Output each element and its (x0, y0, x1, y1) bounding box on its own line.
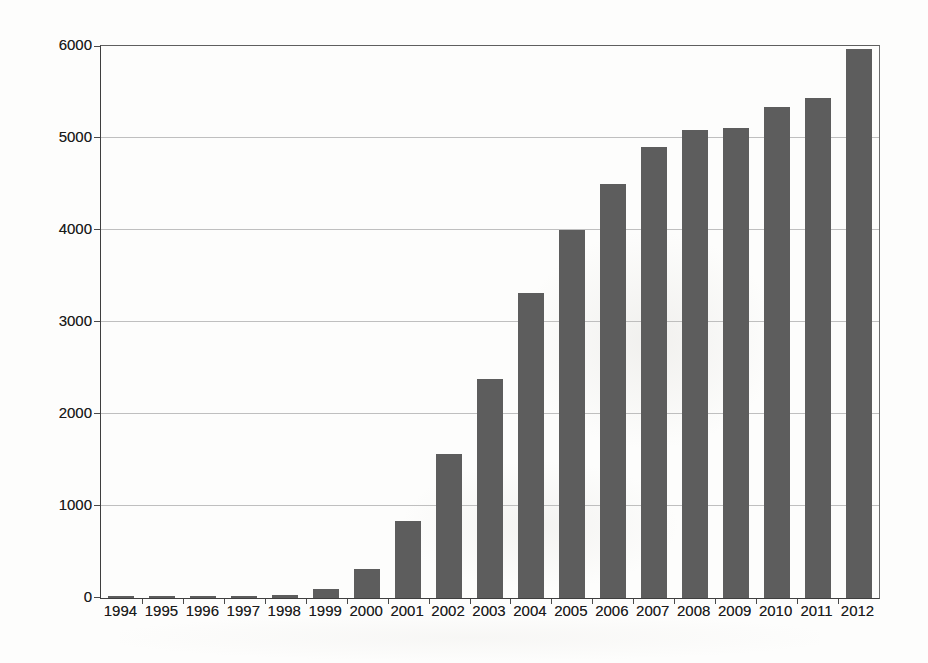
bar-2012 (846, 49, 872, 598)
y-tick-label: 6000 (0, 37, 92, 53)
bar-1999 (313, 589, 339, 598)
y-axis-tick (94, 505, 100, 506)
x-tick-label: 1995 (141, 603, 182, 619)
x-tick-label: 2011 (796, 603, 837, 619)
y-axis-tick (94, 137, 100, 138)
y-tick-label: 2000 (0, 405, 92, 421)
y-axis-tick (94, 46, 100, 47)
y-axis-tick (94, 413, 100, 414)
x-tick-label: 2003 (469, 603, 510, 619)
x-tick-label: 2001 (387, 603, 428, 619)
x-tick-label: 2009 (714, 603, 755, 619)
bar-2011 (805, 98, 831, 598)
bar-2006 (600, 184, 626, 598)
x-tick-label: 2005 (550, 603, 591, 619)
y-tick-label: 3000 (0, 313, 92, 329)
bar-2001 (395, 521, 421, 598)
x-tick-label: 2006 (591, 603, 632, 619)
y-axis-labels: 0100020003000400050006000 (0, 45, 92, 599)
bar-2003 (477, 379, 503, 598)
x-tick-label: 1999 (305, 603, 346, 619)
bar-2009 (723, 128, 749, 598)
plot-area (100, 45, 880, 599)
x-tick-label: 1998 (264, 603, 305, 619)
x-tick-label: 2002 (428, 603, 469, 619)
x-tick-label: 1994 (100, 603, 141, 619)
x-tick-label: 2008 (673, 603, 714, 619)
bar-2004 (518, 293, 544, 598)
bar-2002 (436, 454, 462, 598)
y-tick-label: 5000 (0, 129, 92, 145)
bar-1997 (231, 596, 257, 598)
x-axis-labels: 1994199519961997199819992000200120022003… (100, 603, 880, 623)
scanned-page: 0100020003000400050006000 19941995199619… (0, 0, 928, 663)
bar-2000 (354, 569, 380, 598)
x-tick-label: 2000 (346, 603, 387, 619)
y-tick-label: 1000 (0, 497, 92, 513)
y-tick-label: 0 (0, 589, 92, 605)
x-tick-label: 1996 (182, 603, 223, 619)
x-tick-label: 2012 (837, 603, 878, 619)
bar-2007 (641, 147, 667, 598)
bar-1998 (272, 595, 298, 598)
bar-2010 (764, 107, 790, 598)
bar-1994 (108, 596, 134, 598)
y-axis-tick (94, 321, 100, 322)
x-tick-label: 2004 (509, 603, 550, 619)
bar-2008 (682, 130, 708, 598)
y-axis-tick (94, 229, 100, 230)
y-tick-label: 4000 (0, 221, 92, 237)
x-tick-label: 2007 (632, 603, 673, 619)
gridline-4000 (101, 229, 879, 230)
x-tick-label: 2010 (755, 603, 796, 619)
gridline-5000 (101, 137, 879, 138)
y-axis-tick (94, 597, 100, 598)
x-tick-label: 1997 (223, 603, 264, 619)
gridline-3000 (101, 321, 879, 322)
bar-1995 (149, 596, 175, 598)
bar-1996 (190, 596, 216, 598)
bar-2005 (559, 230, 585, 598)
